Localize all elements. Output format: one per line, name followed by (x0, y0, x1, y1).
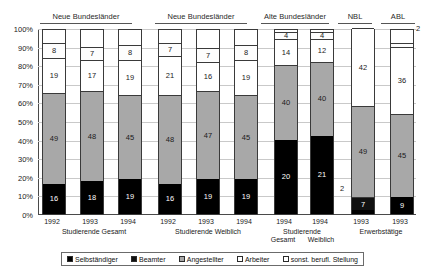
group-header-neue-bundeslaender-gesamt: Neue Bundesländer (40, 12, 132, 21)
header-rule (381, 23, 415, 24)
segment-arbeiter: 17 (81, 60, 103, 92)
x-caption-studierende-gesamt: Studierende Gesamt (42, 228, 146, 235)
bar-abl-erwerb-sonstige-value: 2 (416, 24, 420, 33)
x-label-1994-g2: 1994 (226, 218, 262, 225)
bar-nbl-gesamt-1994[interactable]: 19 45 19 8 (118, 29, 142, 215)
x-label-1993-nbl: 1993 (343, 218, 379, 225)
bar-nbl-erwerbstaetige-1993[interactable]: 7 49 42 (351, 29, 375, 215)
segment-selbstaendiger: 19 (119, 179, 141, 214)
x-label-1993-abl: 1993 (382, 218, 418, 225)
segment-angestellter: 48 (159, 95, 181, 184)
segment-sonstige: 4 (275, 32, 297, 39)
y-tick-60: 60% (18, 99, 33, 108)
legend-label: Selbständiger (75, 256, 118, 263)
y-tick-100: 100% (14, 25, 33, 34)
group-header-row: Neue Bundesländer Neue Bundesländer Alte… (0, 12, 424, 26)
bar-nbl-gesamt-1992[interactable]: 16 49 19 8 (42, 29, 66, 215)
legend-label: sonst. berufl. Stellung (291, 256, 358, 263)
group-header-neue-bundeslaender-weiblich: Neue Bundesländer (155, 12, 247, 21)
header-rule (155, 23, 247, 24)
segment-arbeiter: 14 (275, 39, 297, 65)
segment-angestellter: 45 (235, 95, 257, 179)
group-header-label: Alte Bundesländer (264, 12, 326, 21)
segment-selbstaendiger: 19 (235, 179, 257, 214)
segment-selbstaendiger: 16 (159, 184, 181, 214)
segment-beamter: 7 (352, 197, 374, 210)
bar-abl-weiblich-1994[interactable]: 21 40 12 4 (310, 29, 334, 215)
bar-nbl-weiblich-1992[interactable]: 16 48 21 7 (158, 29, 182, 215)
segment-angestellter: 48 (81, 91, 103, 180)
y-tick-30: 30% (18, 155, 33, 164)
segment-arbeiter: 19 (235, 60, 257, 95)
stacked-bar-chart: Neue Bundesländer Neue Bundesländer Alte… (0, 0, 424, 272)
bar-nbl-weiblich-1994[interactable]: 19 45 19 8 (234, 29, 258, 215)
segment-arbeiter: 19 (43, 58, 65, 93)
segment-angestellter: 47 (197, 91, 219, 178)
segment-selbstaendiger: 18 (81, 181, 103, 214)
group-header-label: NBL (348, 12, 363, 21)
x-caption-erwerbstaetige: Erwerbstätige (343, 228, 419, 235)
segment-arbeiter: 12 (311, 39, 333, 61)
segment-selbstaendiger: 19 (197, 179, 219, 214)
segment-sonstige: 8 (235, 45, 257, 60)
segment-angestellter: 45 (119, 95, 141, 179)
legend-item-selbstaendiger[interactable]: Selbständiger (67, 256, 118, 263)
x-caption-studierende-weiblich: Studierende Weiblich (156, 228, 260, 235)
segment-angestellter: 49 (352, 106, 374, 197)
segment-sonstige: 7 (159, 43, 181, 56)
segment-selbstaendiger: 21 (311, 136, 333, 214)
segment-sonstige: 7 (81, 47, 103, 60)
legend-swatch-icon (179, 256, 185, 262)
bar-abl-gesamt-1994[interactable]: 20 40 14 4 (274, 29, 298, 215)
segment-arbeiter: 42 (352, 28, 374, 106)
x-label-1994-g3a: 1994 (266, 218, 302, 225)
segment-selbstaendiger: 16 (43, 184, 65, 214)
x-label-1992-g1: 1992 (34, 218, 70, 225)
x-caption-gesamt: Gesamt (264, 236, 302, 243)
legend-swatch-icon (131, 256, 137, 262)
x-label-1994-g3b: 1994 (302, 218, 338, 225)
legend-item-arbeiter[interactable]: Arbeiter (237, 256, 270, 263)
y-tick-50: 50% (18, 118, 33, 127)
segment-selbstaendiger (352, 210, 374, 214)
legend-swatch-icon (67, 256, 73, 262)
segment-sonstige (391, 43, 413, 47)
segment-arbeiter: 16 (197, 62, 219, 92)
segment-angestellter: 45 (391, 114, 413, 198)
y-axis-labels: 100% 90% 80% 70% 60% 50% 40% 30% 20% 10%… (0, 29, 36, 215)
segment-sonstige: 8 (43, 43, 65, 58)
group-header-alte-bundeslaender: Alte Bundesländer (261, 12, 329, 21)
legend-swatch-icon (237, 256, 243, 262)
plot-area: 16 49 19 8 18 48 17 7 19 45 19 8 16 48 2… (38, 29, 416, 215)
bar-nbl-gesamt-1993[interactable]: 18 48 17 7 (80, 29, 104, 215)
group-header-label: Neue Bundesländer (52, 12, 119, 21)
x-label-1994-g1: 1994 (110, 218, 146, 225)
legend-item-sonstige[interactable]: sonst. berufl. Stellung (283, 256, 358, 263)
group-header-label: ABL (391, 12, 405, 21)
x-label-1992-g2: 1992 (150, 218, 186, 225)
legend-item-angestellter[interactable]: Angestellter (179, 256, 224, 263)
y-tick-40: 40% (18, 136, 33, 145)
segment-sonstige: 8 (119, 45, 141, 60)
legend-item-beamter[interactable]: Beamter (131, 256, 165, 263)
x-axis-labels: 1992 1993 1994 1992 1993 1994 1994 1994 … (38, 218, 416, 244)
segment-angestellter: 40 (311, 62, 333, 136)
header-rule (338, 23, 372, 24)
group-header-abl: ABL (381, 12, 415, 21)
bar-nbl-weiblich-1993[interactable]: 19 47 16 7 (196, 29, 220, 215)
segment-sonstige: 7 (197, 48, 219, 61)
legend-label: Arbeiter (245, 256, 270, 263)
legend-swatch-icon (283, 256, 289, 262)
bar-abl-erwerbstaetige-1993[interactable]: 9 45 36 (390, 29, 414, 215)
segment-arbeiter: 36 (391, 47, 413, 114)
group-header-label: Neue Bundesländer (167, 12, 234, 21)
x-label-1993-g1: 1993 (72, 218, 108, 225)
header-rule (40, 23, 132, 24)
header-rule (261, 23, 329, 24)
segment-arbeiter: 21 (159, 56, 181, 95)
bar-nbl-erwerb-selbstaendiger-value: 2 (340, 184, 344, 193)
y-tick-90: 90% (18, 43, 33, 52)
segment-angestellter: 49 (43, 93, 65, 184)
x-caption-studierende: Studierende (266, 228, 338, 235)
segment-selbstaendiger: 9 (391, 197, 413, 214)
